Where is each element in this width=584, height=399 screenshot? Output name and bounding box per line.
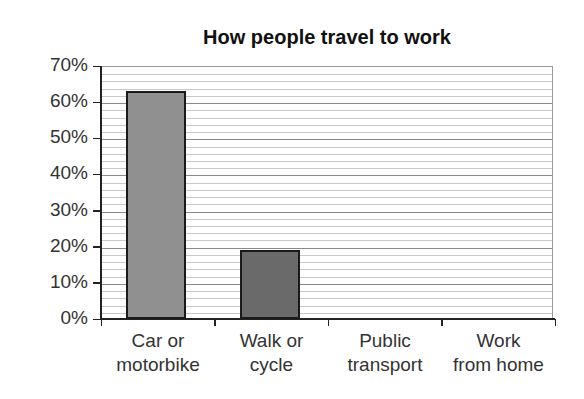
y-tick-label: 10% [0,271,88,293]
x-tick-label: Car ormotorbike [101,329,215,377]
y-tick-label: 60% [0,90,88,112]
x-tick [214,319,216,326]
x-tick-label: Workfrom home [442,329,556,377]
x-tick-label: Publictransport [328,329,442,377]
y-tick-label: 30% [0,199,88,221]
x-tick-label: Walk orcycle [215,329,329,377]
gridline [101,81,552,82]
bar-car-or-motorbike [126,91,186,319]
y-tick-label: 70% [0,54,88,76]
y-axis [100,66,102,320]
y-tick-label: 0% [0,307,88,329]
x-tick [328,319,330,326]
gridline [101,74,552,75]
y-tick-label: 20% [0,235,88,257]
y-tick-label: 40% [0,162,88,184]
chart-title: How people travel to work [0,26,584,49]
x-tick [101,319,103,326]
bar-walk-or-cycle [240,250,300,319]
gridline [101,89,552,90]
y-tick-label: 50% [0,126,88,148]
x-tick [441,319,443,326]
x-tick [555,319,557,326]
